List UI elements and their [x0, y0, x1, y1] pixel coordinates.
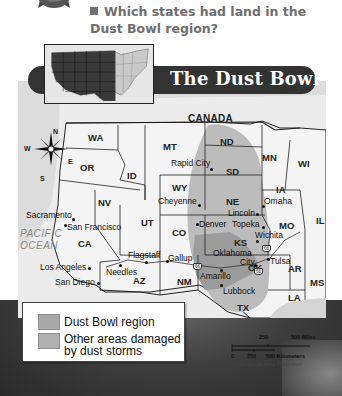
legend-item-dust-bowl: Dust Bowl region [38, 314, 155, 330]
inset-us-map [45, 45, 153, 103]
projection-label: Albers Equal-Area Projection [231, 361, 302, 367]
compass-e-label: E [68, 158, 73, 165]
compass-n-label: N [53, 128, 58, 135]
route-66-shield-icon: 66 [254, 268, 263, 275]
city-label-san-diego: San Diego [55, 277, 95, 287]
state-label-ut: UT [141, 217, 154, 228]
city-dot-flagstaff [145, 261, 148, 264]
country-label-canada: CANADA [188, 113, 233, 124]
scale-km-0: 0 [231, 353, 234, 359]
state-label-nm: NM [177, 276, 192, 287]
city-label-cheyenne: Cheyenne [158, 196, 197, 206]
city-dot-topeka [262, 226, 265, 229]
state-label-wa: WA [88, 132, 103, 143]
state-label-ne: NE [226, 196, 239, 207]
state-label-tx: TX [237, 302, 249, 313]
map-legend: Dust Bowl region Other areas damaged by … [22, 302, 185, 362]
locator-inset-map [44, 44, 154, 104]
state-label-la: LA [288, 292, 301, 303]
legend-swatch-dust-bowl [38, 314, 60, 330]
city-dot-lincoln [256, 213, 259, 216]
state-label-or: OR [80, 162, 94, 173]
state-label-nd: ND [220, 136, 234, 147]
state-label-wy: WY [172, 182, 187, 193]
state-label-ia: IA [276, 184, 286, 195]
state-label-ks: KS [234, 237, 247, 248]
city-label-lincoln: Lincoln [228, 208, 255, 218]
city-label-lubbock: Lubbock [223, 286, 255, 296]
map-title: The Dust Bowl [170, 68, 320, 89]
city-dot-wichita [256, 240, 259, 243]
state-label-ms: MS [310, 277, 324, 288]
ocean-label: PACIFIC OCEAN [20, 228, 62, 252]
section-badge-icon [28, 0, 80, 10]
compass-rose-icon [30, 128, 72, 170]
route-66-shield-icon: 66 [262, 245, 271, 252]
legend-label-damaged: Other areas damaged by dust storms [64, 333, 181, 357]
state-label-co: CO [172, 227, 186, 238]
state-label-il: IL [316, 215, 324, 226]
compass-w-label: W [24, 145, 31, 152]
compass-s-label: S [40, 175, 45, 182]
city-label-los-angeles: Los Angeles [40, 262, 86, 272]
city-label-tulsa: Tulsa [270, 256, 290, 266]
question-text: Which states had land in the Dust Bowl r… [90, 4, 306, 36]
map-question: Which states had land in the Dust Bowl r… [90, 3, 330, 37]
city-label-topeka: Topeka [232, 219, 259, 229]
city-label-gallup: Gallup [168, 253, 193, 263]
city-dot-rapid-city [210, 168, 213, 171]
city-dot-san-diego [97, 282, 100, 285]
scale-miles-500: 500 Miles [291, 334, 315, 340]
city-label-wichita: Wichita [255, 230, 283, 240]
legend-swatch-damaged [38, 333, 60, 349]
city-dot-cheyenne [198, 204, 201, 207]
city-dot-sacramento [72, 218, 75, 221]
square-bullet-icon [90, 7, 98, 15]
city-label-san-francisco: San Francisco [67, 222, 121, 232]
state-label-sd: SD [226, 166, 239, 177]
city-label-omaha: Omaha [264, 196, 292, 206]
city-label-flagstaff: Flagstaff [128, 250, 160, 260]
state-label-nv: NV [98, 197, 111, 208]
legend-label-damaged-line2: by dust storms [64, 345, 181, 357]
city-label-denver: Denver [199, 219, 226, 229]
city-label-needles: Needles [106, 267, 137, 277]
state-label-wi: WI [298, 158, 310, 169]
scale-km-500: 500 Kilometers [266, 353, 305, 359]
legend-item-damaged-areas: Other areas damaged by dust storms [38, 333, 181, 357]
city-dot-los-angeles [88, 267, 91, 270]
state-label-mn: MN [262, 152, 277, 163]
state-label-id: ID [127, 170, 137, 181]
city-label-amarillo: Amarillo [200, 271, 231, 281]
state-label-ca: CA [78, 238, 92, 249]
ocean-label-line2: OCEAN [20, 240, 62, 252]
legend-label-dust-bowl: Dust Bowl region [64, 314, 155, 330]
scale-km-250: 250 [247, 353, 256, 359]
city-label-sacramento: Sacramento [26, 210, 72, 220]
city-label-rapid-city: Rapid City [171, 158, 210, 168]
ocean-label-line1: PACIFIC [20, 228, 62, 240]
city-label-oklahoma-city: City [240, 257, 255, 267]
state-label-mt: MT [163, 141, 177, 152]
route-66-shield-icon: 66 [193, 263, 202, 270]
scale-miles-250: 250 [259, 334, 268, 340]
